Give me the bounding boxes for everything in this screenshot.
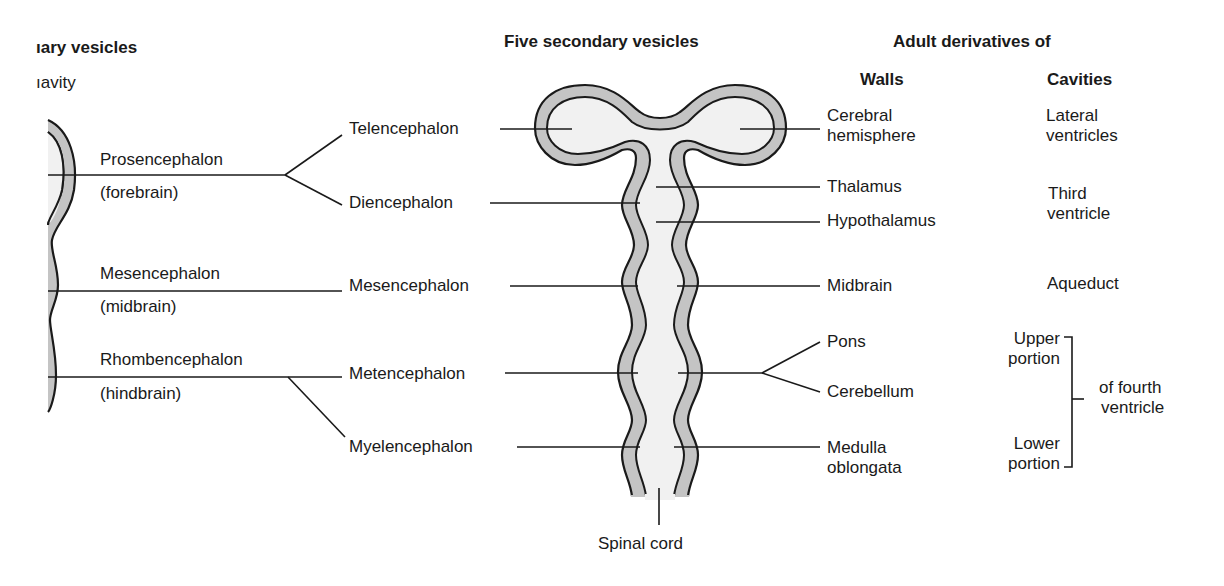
label-hemisphere: hemisphere [827, 126, 916, 146]
label-diencephalon: Diencephalon [349, 193, 453, 213]
header-adult-derivatives: Adult derivatives of [893, 32, 1051, 52]
label-midbrain-primary: (midbrain) [100, 297, 177, 317]
label-third: Third [1048, 184, 1087, 204]
label-secondary-mesencephalon: Mesencephalon [349, 276, 469, 296]
secondary-vesicles-shape [535, 85, 786, 500]
label-medulla: Medulla [827, 438, 887, 458]
header-secondary-vesicles: Five secondary vesicles [504, 32, 699, 52]
label-oblongata: oblongata [827, 458, 902, 478]
brain-vesicles-diagram [0, 0, 1224, 586]
label-prosencephalon: Prosencephalon [100, 150, 223, 170]
label-aqueduct: Aqueduct [1047, 274, 1119, 294]
label-lower: Lower [1000, 434, 1060, 454]
label-rhombencephalon: Rhombencephalon [100, 350, 243, 370]
label-forebrain: (forebrain) [100, 183, 178, 203]
label-upper-portion: portion [990, 349, 1060, 369]
label-cerebral: Cerebral [827, 106, 892, 126]
label-cerebellum: Cerebellum [827, 382, 914, 402]
label-upper: Upper [1000, 329, 1060, 349]
label-hypothalamus: Hypothalamus [827, 211, 936, 231]
header-primary-cavity: ıavity [36, 73, 76, 93]
label-lateral: Lateral [1046, 106, 1098, 126]
label-lower-portion: portion [990, 454, 1060, 474]
header-primary-vesicles: ıary vesicles [36, 38, 137, 58]
label-metencephalon: Metencephalon [349, 364, 465, 384]
header-walls: Walls [860, 70, 904, 90]
label-of-fourth: of fourth [1099, 378, 1161, 398]
label-thalamus: Thalamus [827, 177, 902, 197]
label-primary-mesencephalon: Mesencephalon [100, 264, 220, 284]
primary-vesicles-shape [48, 120, 75, 412]
label-midbrain: Midbrain [827, 276, 892, 296]
header-cavities: Cavities [1047, 70, 1112, 90]
leader-lines [48, 129, 1084, 525]
label-telencephalon: Telencephalon [349, 119, 459, 139]
label-myelencephalon: Myelencephalon [349, 437, 473, 457]
label-fourth-ventricle: ventricle [1101, 398, 1164, 418]
label-pons: Pons [827, 332, 866, 352]
label-third-ventricle: ventricle [1047, 204, 1110, 224]
label-spinal-cord: Spinal cord [598, 534, 683, 554]
label-lateral-ventricles: ventricles [1046, 126, 1118, 146]
label-hindbrain: (hindbrain) [100, 384, 181, 404]
